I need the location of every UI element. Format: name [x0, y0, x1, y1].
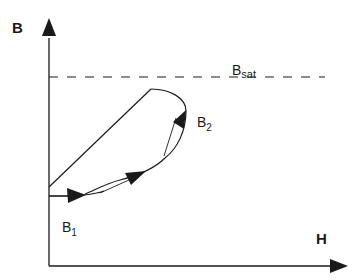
- x-axis-arrow-icon: [330, 259, 348, 273]
- initial-path: [49, 188, 104, 203]
- y-axis-label: B: [12, 19, 23, 36]
- y-axis: [42, 18, 56, 266]
- point-b2-label: B2: [197, 114, 212, 133]
- saturation-label: Bsat: [232, 62, 256, 80]
- arrow-icon: [67, 188, 86, 203]
- point-b1-label: B1: [62, 219, 77, 238]
- magnetization-curve: [49, 89, 186, 194]
- arrow-icon: [125, 171, 146, 185]
- y-axis-arrow-icon: [42, 18, 56, 36]
- arrow-icon: [173, 110, 186, 129]
- x-axis-label: H: [316, 230, 327, 247]
- x-axis: [49, 259, 348, 273]
- bh-diagram: B H Bsat B2 B1: [0, 0, 359, 280]
